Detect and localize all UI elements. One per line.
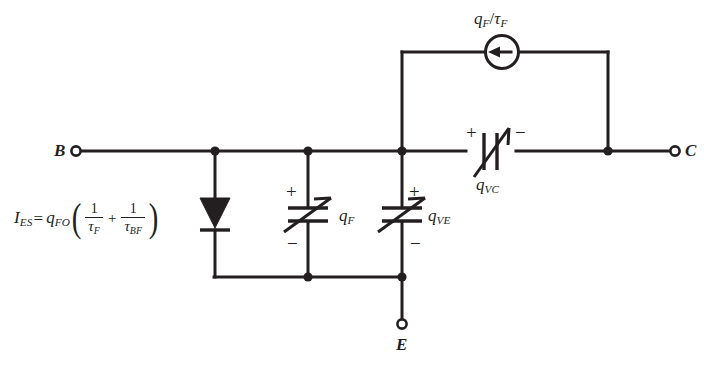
terminal-label-collector: C [685, 142, 696, 159]
terminal-label-emitter: E [396, 336, 407, 353]
qvc-plus-sign: + [466, 123, 477, 142]
qvc-variable-arrow-shaft [474, 128, 509, 177]
qf-plus-sign: + [286, 182, 297, 201]
equation-coefficient: qFO [46, 209, 70, 228]
terminal-collector-circle[interactable] [670, 146, 679, 155]
fraction-2-denominator: τBF [121, 217, 145, 236]
node-diode-top [210, 146, 219, 155]
qve-label: qVE [428, 207, 451, 226]
diode-equation: IES = qFO ( 1 τF + 1 τBF ) [14, 200, 161, 237]
equation-fraction-1: 1 τF [85, 202, 103, 236]
terminal-emitter-circle[interactable] [397, 319, 406, 328]
node-qf-bottom [303, 272, 312, 281]
qvc-label: qVC [476, 176, 499, 195]
qf-minus-sign: − [287, 234, 298, 253]
qvc-minus-sign: − [515, 123, 526, 142]
qve-minus-sign: − [410, 234, 421, 253]
equation-equals: = [34, 210, 44, 227]
circuit-diagram: B C E IES = qFO ( 1 τF + 1 τBF ) + − qF … [0, 0, 704, 370]
qf-variable-arrow-barb [314, 198, 331, 199]
node-collector-loop [603, 146, 612, 155]
equation-lhs: IES [14, 209, 33, 228]
node-qve-top [397, 146, 406, 155]
equation-open-paren: ( [72, 200, 82, 237]
fraction-1-denominator: τF [85, 217, 103, 236]
schematic-canvas [0, 0, 704, 370]
current-source-label: qF/τF [474, 10, 507, 29]
qvc-variable-arrow-barb [508, 128, 509, 145]
node-qf-top [303, 146, 312, 155]
qve-plus-sign: + [409, 182, 420, 201]
qf-label: qF [339, 207, 355, 226]
node-emitter [397, 272, 406, 281]
equation-close-paren: ) [149, 200, 159, 237]
fraction-1-numerator: 1 [88, 202, 101, 217]
terminal-base-circle[interactable] [71, 146, 80, 155]
equation-operator: + [108, 211, 116, 226]
terminal-label-base: B [54, 142, 65, 159]
equation-fraction-2: 1 τBF [121, 202, 145, 236]
fraction-2-numerator: 1 [127, 202, 140, 217]
diode-triangle [200, 198, 230, 228]
